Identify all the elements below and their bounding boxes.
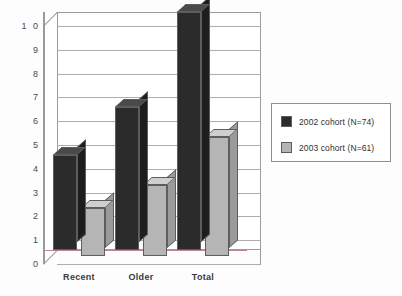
bar-side-face	[139, 91, 148, 242]
bar-side-face	[77, 139, 86, 242]
legend-entry: 2003 cohort (N=61)	[281, 142, 374, 153]
bar-chart-figure: 1 09876543210 RecentOlderTotal 2002 coho…	[0, 0, 402, 296]
y-tick-label: 7	[6, 93, 40, 102]
legend-entry: 2002 cohort (N=74)	[281, 116, 374, 127]
y-axis: 1 09876543210	[0, 0, 40, 296]
gridline	[57, 26, 261, 27]
y-tick-label: 0	[6, 260, 40, 269]
y-tick-label: 2	[6, 212, 40, 221]
y-tick-label: 6	[6, 117, 40, 126]
bar-recent-series1	[53, 155, 77, 250]
legend-swatch	[281, 116, 292, 127]
y-tick-label: 3	[6, 188, 40, 197]
x-tick-label: Recent	[45, 272, 113, 282]
y-tick-label: 8	[6, 69, 40, 78]
bar-older-series1	[115, 107, 139, 250]
y-tick-label: 4	[6, 164, 40, 173]
bar-front-face	[115, 107, 139, 250]
chart-legend: 2002 cohort (N=74)2003 cohort (N=61)	[271, 103, 391, 162]
bar-side-face	[201, 0, 210, 242]
y-tick-label: 1 0	[6, 22, 40, 31]
legend-swatch	[281, 142, 292, 153]
gridline	[57, 74, 261, 75]
gridline	[57, 264, 261, 265]
legend-label: 2003 cohort (N=61)	[299, 143, 374, 153]
y-tick-label: 1	[6, 236, 40, 245]
plot-floor	[43, 260, 261, 264]
bar-side-face	[229, 121, 238, 248]
y-tick-label: 5	[6, 141, 40, 150]
gridline	[57, 50, 261, 51]
gridline	[57, 121, 261, 122]
x-tick-label: Older	[107, 272, 175, 282]
plot-area	[43, 12, 261, 264]
x-tick-label: Total	[169, 272, 237, 282]
bar-total-series1	[177, 12, 201, 250]
gridline	[57, 97, 261, 98]
bar-front-face	[53, 155, 77, 250]
y-tick-label: 9	[6, 45, 40, 54]
legend-label: 2002 cohort (N=74)	[299, 117, 374, 127]
bar-front-face	[177, 12, 201, 250]
